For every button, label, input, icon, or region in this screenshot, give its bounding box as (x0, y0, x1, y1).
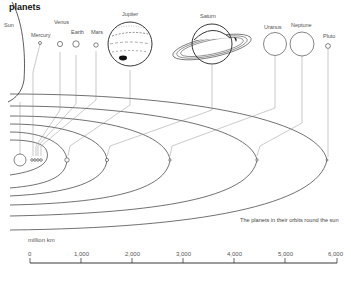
scale-tick-4000: 4,000 (227, 251, 243, 257)
earth-icon (73, 41, 79, 47)
label-venus: Venus (54, 19, 69, 25)
label-jupiter: Jupiter (122, 11, 138, 17)
pluto-dot-icon (326, 159, 328, 161)
label-uranus: Uranus (264, 24, 282, 30)
scale-tick-2000: 2,000 (125, 251, 141, 257)
orbit-neptune (10, 106, 257, 216)
neptune-dot-icon (256, 159, 258, 161)
pluto-icon (326, 44, 331, 49)
scale-unit-label: million km (28, 237, 55, 243)
scale-tick-0: 0 (28, 251, 32, 257)
label-pluto: Pluto (323, 33, 335, 39)
venus-dot-icon (34, 159, 37, 162)
uranus-icon (264, 33, 287, 56)
sun-limb (8, 2, 25, 102)
orbits (10, 94, 327, 230)
venus-icon (57, 41, 62, 46)
mercury-icon (39, 42, 42, 45)
scale-tick-5000: 5,000 (278, 251, 294, 257)
neptune-icon (290, 32, 314, 56)
scale-tick-3000: 3,000 (176, 251, 192, 257)
scale-tick-6000: 6,000 (328, 251, 344, 257)
page-title: planets (9, 2, 41, 12)
saturn-dot-icon (105, 158, 108, 161)
planets-diagram: planets Sun Mercury Venus Earth Mars Jup… (0, 0, 351, 281)
mercury-dot-icon (31, 159, 34, 162)
jupiter-icon (108, 22, 152, 66)
label-mercury: Mercury (31, 32, 51, 38)
mars-dot-icon (40, 159, 43, 162)
uranus-dot-icon (169, 159, 171, 161)
label-saturn: Saturn (200, 13, 216, 19)
scale-tick-1000: 1,000 (74, 251, 90, 257)
label-earth: Earth (71, 29, 84, 35)
scale-bar: million km 0 1,000 2,000 3,000 4,000 5,0… (28, 237, 344, 263)
earth-dot-icon (37, 159, 40, 162)
sun-icon (14, 154, 26, 166)
label-sun: Sun (4, 22, 14, 28)
label-mars: Mars (91, 29, 103, 35)
mars-icon (94, 43, 98, 47)
jupiter-dot-icon (65, 158, 69, 162)
saturn-icon (171, 24, 253, 65)
diagram-caption: The planets in their orbits round the su… (240, 217, 339, 223)
label-neptune: Neptune (291, 22, 311, 28)
connectors (20, 44, 328, 157)
orbit-pluto (10, 94, 327, 230)
